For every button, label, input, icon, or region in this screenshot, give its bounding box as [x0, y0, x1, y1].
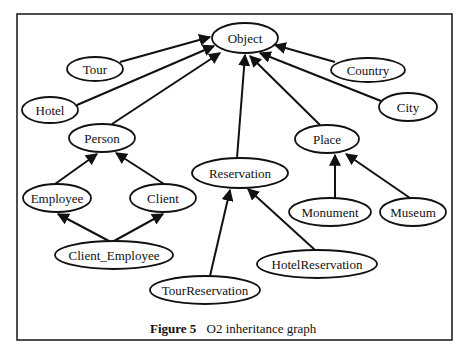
node-client-employee: Client_Employee — [55, 241, 173, 269]
node-monument: Monument — [289, 198, 371, 226]
node-label: Client_Employee — [69, 248, 160, 263]
edge-place-object — [250, 56, 320, 125]
node-label: Client — [147, 191, 179, 206]
node-label: Reservation — [209, 166, 272, 181]
node-hotel-reservation: HotelReservation — [257, 250, 377, 278]
inheritance-graph-figure: Object Tour Hotel Person Country City Pl… — [0, 0, 466, 357]
caption-label: Figure 5 — [150, 321, 197, 336]
node-employee: Employee — [23, 184, 91, 212]
node-tour-reservation: TourReservation — [150, 276, 260, 304]
edge-clientemployee-employee — [58, 214, 109, 241]
node-label: Tour — [83, 62, 108, 77]
node-label: Museum — [390, 205, 436, 220]
edge-country-object — [275, 45, 335, 62]
node-label: Country — [347, 63, 390, 78]
edge-client-person — [116, 153, 164, 184]
node-hotel: Hotel — [22, 97, 78, 123]
node-museum: Museum — [380, 198, 446, 226]
node-city: City — [379, 93, 437, 121]
node-object: Object — [212, 23, 278, 53]
node-label: TourReservation — [162, 283, 249, 298]
edge-employee-person — [55, 154, 97, 184]
node-reservation: Reservation — [192, 158, 288, 188]
node-place: Place — [295, 125, 359, 153]
node-country: Country — [331, 58, 405, 82]
node-label: Hotel — [36, 103, 65, 118]
edge-museum-place — [346, 154, 410, 198]
edge-tour-object — [120, 37, 210, 62]
edge-person-object — [112, 53, 220, 124]
figure-caption: Figure 5 O2 inheritance graph — [150, 321, 317, 336]
edge-reservation-object — [237, 55, 245, 158]
node-label: Object — [228, 31, 263, 46]
node-label: Employee — [31, 191, 84, 206]
node-label: City — [397, 100, 420, 115]
caption-text: O2 inheritance graph — [207, 321, 317, 336]
node-label: HotelReservation — [272, 257, 363, 272]
node-person: Person — [69, 124, 135, 152]
edge-tourreservation-reservation — [210, 190, 230, 276]
node-label: Person — [84, 131, 120, 146]
edge-clientemployee-client — [114, 214, 163, 241]
node-label: Monument — [301, 205, 358, 220]
node-tour: Tour — [67, 57, 123, 81]
node-label: Place — [313, 132, 341, 147]
node-client: Client — [130, 184, 196, 212]
